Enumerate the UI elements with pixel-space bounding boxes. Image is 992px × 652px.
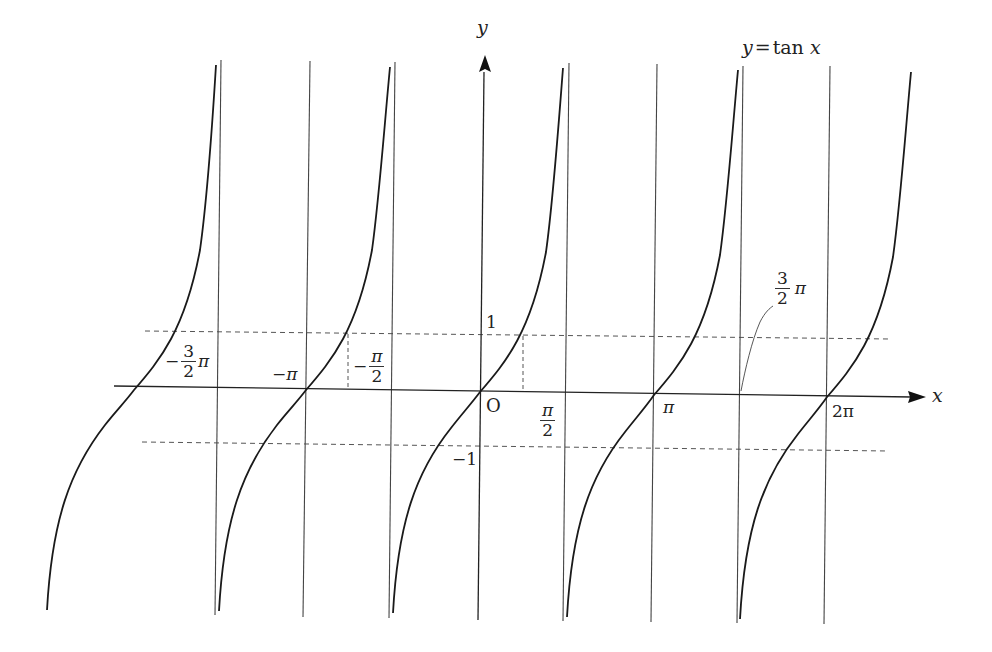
x-tick-half-pi: π2 bbox=[540, 402, 555, 439]
frac-num: 3 bbox=[181, 343, 196, 362]
frac-den: 2 bbox=[183, 362, 194, 380]
x-tick-three-half-pi: 32 π bbox=[775, 270, 806, 307]
y-tick-one: 1 bbox=[486, 314, 497, 331]
x-axis bbox=[114, 386, 912, 397]
line-neg-pi bbox=[303, 61, 310, 617]
frac-den: 2 bbox=[371, 367, 382, 385]
frac-den: 2 bbox=[542, 421, 553, 439]
tan-branch-3 bbox=[393, 68, 563, 613]
pi-symbol: π bbox=[198, 353, 209, 370]
sign: − bbox=[165, 353, 179, 370]
y-tick-neg-one: −1 bbox=[452, 451, 477, 468]
asymptote-three-half-pi bbox=[737, 66, 743, 623]
frac-num: 3 bbox=[775, 270, 790, 289]
asymptote-half-pi bbox=[563, 63, 569, 621]
x-axis-label: x bbox=[932, 386, 943, 405]
x-tick-two-pi: 2π bbox=[832, 403, 854, 420]
y-axis bbox=[478, 72, 484, 620]
vertical-lines bbox=[215, 60, 830, 624]
tan-branch-1 bbox=[47, 65, 216, 610]
x-tick-neg-pi: −π bbox=[272, 366, 297, 383]
title-eq: = bbox=[755, 36, 771, 58]
tan-branch-5 bbox=[740, 72, 911, 619]
x-tick-neg-three-half-pi: − 32 π bbox=[165, 343, 209, 380]
title-lhs: y bbox=[742, 36, 753, 58]
sign: − bbox=[353, 358, 367, 375]
x-axis-arrow-icon bbox=[908, 391, 926, 403]
x-tick-neg-half-pi: − π2 bbox=[353, 348, 384, 385]
asymptote-neg-three-half-pi bbox=[215, 60, 221, 615]
frac-num: π bbox=[540, 402, 555, 421]
dashed-line-y-1 bbox=[145, 331, 890, 339]
line-two-pi bbox=[824, 66, 830, 624]
tan-branch-4 bbox=[567, 70, 738, 617]
origin-label: O bbox=[486, 397, 501, 415]
asymptote-neg-half-pi bbox=[389, 62, 395, 618]
title-arg: x bbox=[810, 36, 821, 58]
title-fn: tan bbox=[773, 36, 804, 58]
dashed-line-y-neg1 bbox=[142, 442, 888, 451]
line-pi bbox=[651, 64, 657, 622]
frac-num: π bbox=[369, 348, 384, 367]
y-axis-label: y bbox=[477, 18, 488, 37]
frac-den: 2 bbox=[777, 289, 788, 307]
x-tick-pi: π bbox=[663, 399, 674, 416]
leader-line-three-half-pi bbox=[741, 306, 773, 391]
pi-symbol: π bbox=[795, 280, 806, 297]
y-axis-arrow-icon bbox=[479, 55, 491, 72]
graph-title: y=tan x bbox=[742, 38, 821, 57]
